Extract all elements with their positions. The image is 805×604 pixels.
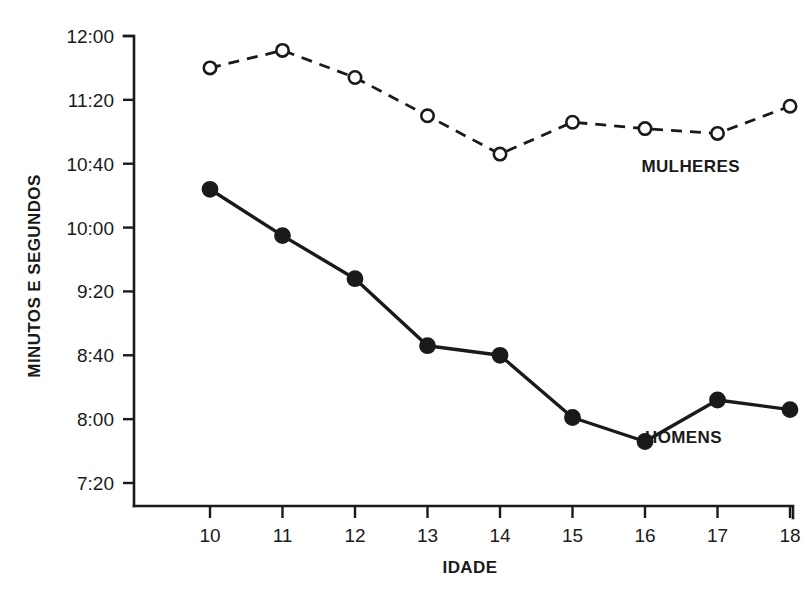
x-tick-label: 12 xyxy=(344,525,365,546)
y-tick-label: 8:00 xyxy=(77,409,114,430)
series-label-homens: HOMENS xyxy=(645,428,722,447)
x-tick-label: 17 xyxy=(707,525,728,546)
y-tick-label: 10:00 xyxy=(66,218,114,239)
chart-container: 12:0011:2010:4010:009:208:408:007:20 101… xyxy=(0,0,805,604)
data-point: HOMENS 14: 8:40 xyxy=(493,348,508,363)
data-point: HOMENS 13: 8:46 xyxy=(420,338,435,353)
x-axis-title: IDADE xyxy=(443,558,498,577)
data-point: MULHERES 17: 10:59 xyxy=(711,127,723,139)
data-point: HOMENS 10: 10:24 xyxy=(203,182,218,197)
data-point: HOMENS 11: 9:55 xyxy=(275,228,290,243)
line-chart: 12:0011:2010:4010:009:208:408:007:20 101… xyxy=(0,0,805,604)
series-label-mulheres: MULHERES xyxy=(641,157,740,176)
y-tick-label: 10:40 xyxy=(66,154,114,175)
x-tick-label: 11 xyxy=(273,525,293,546)
y-tick-label: 8:40 xyxy=(77,345,114,366)
data-point: MULHERES 14: 10:46 xyxy=(494,148,506,160)
x-tick-label: 14 xyxy=(489,525,511,546)
y-tick-label: 12:00 xyxy=(66,26,114,47)
data-point: HOMENS 12: 9:28 xyxy=(348,271,363,286)
x-tick-label: 18 xyxy=(779,525,800,546)
x-tick-label: 13 xyxy=(417,525,438,546)
data-point: MULHERES 16: 11:02 xyxy=(639,122,651,134)
x-tick-label: 10 xyxy=(199,525,220,546)
chart-background xyxy=(0,0,805,604)
data-point: HOMENS 18: 8:06 xyxy=(783,402,798,417)
data-point: HOMENS 15: 8:01 xyxy=(565,410,580,425)
y-tick-label: 7:20 xyxy=(77,473,114,494)
y-tick-label: 9:20 xyxy=(77,281,114,302)
data-point: MULHERES 11: 11:51 xyxy=(276,44,288,56)
y-axis-title: MINUTOS E SEGUNDOS xyxy=(25,174,44,377)
x-tick-label: 16 xyxy=(634,525,655,546)
y-tick-label: 11:20 xyxy=(68,90,114,111)
x-tick-label: 15 xyxy=(562,525,583,546)
data-point: MULHERES 18: 11:16 xyxy=(784,100,796,112)
data-point: MULHERES 10: 11:40 xyxy=(204,62,216,74)
data-point: HOMENS 17: 8:12 xyxy=(710,393,725,408)
data-point: MULHERES 15: 11:06 xyxy=(566,116,578,128)
x-axis-tick-labels: 101112131415161718 xyxy=(199,525,800,546)
data-point: MULHERES 13: 11:10 xyxy=(421,110,433,122)
data-point: MULHERES 12: 11:34 xyxy=(349,71,361,83)
